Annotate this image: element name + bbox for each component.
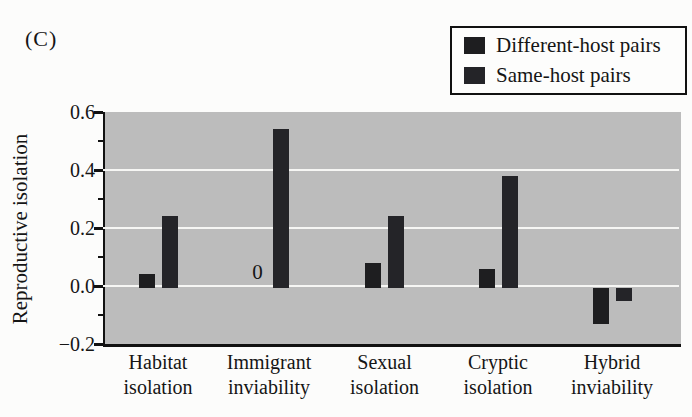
legend-label-same-host: Same-host pairs — [496, 65, 631, 86]
bar-same-host-pairs-cryptic-isolation — [502, 176, 518, 288]
bar-same-host-pairs-habitat-isolation — [162, 216, 178, 288]
x-category-label-line: Hybrid — [542, 350, 682, 375]
zero-value-label: 0 — [246, 259, 270, 285]
legend-swatch-different-host-icon — [464, 37, 485, 54]
bar-same-host-pairs-hybrid-inviability — [616, 288, 632, 301]
y-axis-tick — [94, 343, 103, 346]
bar-different-host-pairs-sexual-isolation — [365, 263, 381, 288]
x-category-label-hybrid-inviability: Hybridinviability — [542, 350, 682, 400]
y-tick-label: 0.6 — [39, 99, 95, 125]
figure-panel-c: (C) Different-host pairs Same-host pairs… — [0, 0, 692, 417]
bar-different-host-pairs-habitat-isolation — [139, 274, 155, 288]
y-axis-minor-tick — [98, 140, 103, 142]
legend-swatch-same-host-icon — [464, 67, 485, 84]
gridline-0.4 — [103, 169, 679, 171]
legend-item-same-host: Same-host pairs — [464, 63, 685, 89]
bar-different-host-pairs-hybrid-inviability — [593, 288, 609, 324]
legend-item-different-host: Different-host pairs — [464, 33, 685, 59]
bar-same-host-pairs-sexual-isolation — [388, 216, 404, 288]
legend-label-different-host: Different-host pairs — [496, 35, 661, 56]
bar-same-host-pairs-immigrant-inviability — [273, 129, 289, 288]
y-axis-minor-tick — [98, 198, 103, 200]
y-tick-label: 0.0 — [39, 273, 95, 299]
y-tick-label: −0.2 — [39, 331, 95, 357]
y-tick-label: 0.4 — [39, 157, 95, 183]
y-axis-tick — [94, 227, 103, 230]
y-axis-tick — [94, 111, 103, 114]
y-axis-minor-tick — [98, 256, 103, 258]
y-axis-title: Reproductive isolation — [7, 106, 33, 352]
y-tick-label: 0.2 — [39, 215, 95, 241]
bar-different-host-pairs-cryptic-isolation — [479, 269, 495, 288]
y-axis-minor-tick — [98, 314, 103, 316]
panel-label: (C) — [25, 26, 57, 52]
y-axis-tick — [94, 285, 103, 288]
legend: Different-host pairs Same-host pairs — [450, 26, 687, 95]
y-axis-tick — [94, 169, 103, 172]
x-category-label-line: inviability — [542, 375, 682, 400]
